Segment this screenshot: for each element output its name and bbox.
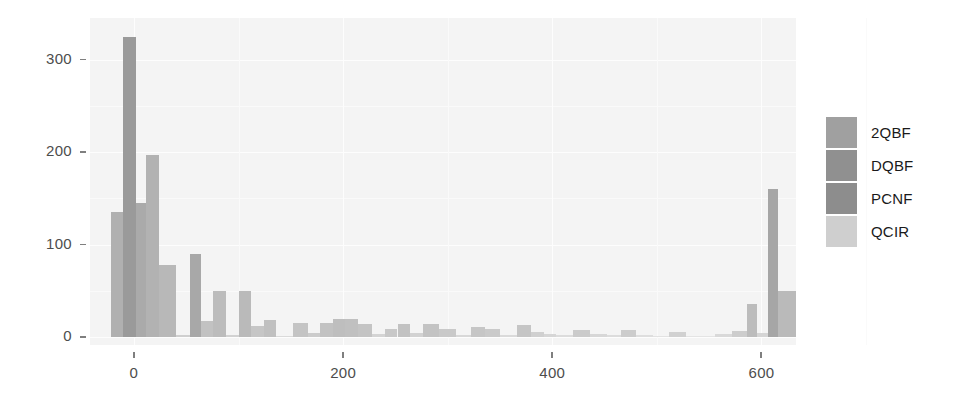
legend-item[interactable]: PCNF bbox=[826, 182, 956, 215]
legend-item[interactable]: 2QBF bbox=[826, 116, 956, 149]
histogram-bar bbox=[636, 335, 653, 337]
x-axis-tick-label: 600 bbox=[749, 364, 775, 381]
legend-item-label: DQBF bbox=[871, 157, 913, 174]
y-axis-tick-mark bbox=[80, 151, 86, 153]
chart-legend: 2QBFDQBFPCNFQCIR bbox=[826, 116, 956, 248]
histogram-bar bbox=[251, 326, 264, 337]
histogram-bar bbox=[136, 203, 146, 337]
histogram-bar bbox=[410, 333, 423, 337]
plot-panel bbox=[90, 18, 796, 345]
legend-item[interactable]: DQBF bbox=[826, 149, 956, 182]
y-axis-tick-mark bbox=[80, 244, 86, 246]
y-axis-tick-label: 300 bbox=[0, 50, 72, 67]
histogram-bar bbox=[308, 333, 321, 337]
histogram-bar bbox=[372, 334, 385, 337]
x-axis-tick-label: 400 bbox=[539, 364, 565, 381]
histogram-bar bbox=[358, 324, 373, 337]
histogram-bar bbox=[201, 321, 214, 337]
histogram-bar bbox=[732, 331, 747, 337]
x-axis-tick-mark bbox=[342, 352, 344, 358]
histogram-bar bbox=[768, 189, 778, 337]
legend-color-swatch bbox=[826, 216, 857, 247]
y-axis-tick-label: 200 bbox=[0, 142, 72, 159]
histogram-bar bbox=[621, 330, 636, 337]
chart-figure: 0100200300 0200400600 2QBFDQBFPCNFQCIR bbox=[0, 0, 966, 405]
x-axis-tick-mark bbox=[760, 352, 762, 358]
histogram-bar bbox=[607, 335, 622, 337]
histogram-bar bbox=[176, 335, 191, 337]
histogram-bar bbox=[123, 37, 136, 338]
histogram-bar bbox=[456, 335, 471, 337]
histogram-bar bbox=[531, 332, 544, 337]
y-axis-tick-label: 0 bbox=[0, 327, 72, 344]
histogram-bar bbox=[757, 333, 767, 337]
legend-item-label: QCIR bbox=[871, 223, 909, 240]
histogram-bar bbox=[276, 336, 293, 337]
histogram-bar bbox=[111, 212, 124, 337]
legend-item-label: 2QBF bbox=[871, 124, 911, 141]
histogram-bar bbox=[159, 265, 176, 337]
histogram-bar bbox=[423, 324, 440, 337]
histogram-bar bbox=[398, 324, 411, 337]
histogram-bar bbox=[293, 323, 308, 337]
legend-color-swatch bbox=[826, 183, 857, 214]
histogram-bar bbox=[345, 319, 358, 337]
histogram-bar bbox=[320, 323, 333, 337]
histogram-bar bbox=[485, 329, 500, 337]
x-axis-tick-mark bbox=[133, 352, 135, 358]
histogram-bar bbox=[500, 335, 517, 337]
x-axis-tick-label: 0 bbox=[130, 364, 139, 381]
histogram-bar bbox=[471, 327, 486, 337]
histogram-bar bbox=[715, 334, 732, 337]
histogram-bar bbox=[264, 320, 277, 337]
histogram-bar bbox=[439, 329, 456, 337]
histogram-bar bbox=[778, 291, 796, 337]
histogram-bar bbox=[146, 155, 159, 337]
y-axis-tick-mark bbox=[80, 336, 86, 338]
histogram-bar bbox=[544, 334, 557, 337]
x-axis-tick-label: 200 bbox=[330, 364, 356, 381]
histogram-bar bbox=[385, 329, 398, 337]
x-axis-tick-mark bbox=[551, 352, 553, 358]
histogram-bar bbox=[747, 304, 757, 337]
histogram-bar bbox=[239, 291, 252, 337]
histogram-bar bbox=[590, 334, 607, 337]
y-axis-tick-label: 100 bbox=[0, 235, 72, 252]
legend-color-swatch bbox=[826, 150, 857, 181]
histogram-bar bbox=[213, 291, 226, 337]
histogram-bar bbox=[653, 336, 670, 337]
legend-color-swatch bbox=[826, 117, 857, 148]
histogram-bar bbox=[556, 335, 573, 337]
y-axis-tick-mark bbox=[80, 59, 86, 61]
histogram-bar bbox=[333, 319, 346, 337]
histogram-bar bbox=[226, 335, 239, 337]
histogram-bars bbox=[90, 18, 796, 345]
histogram-bar bbox=[686, 336, 715, 337]
histogram-bar bbox=[573, 330, 590, 337]
histogram-bar bbox=[517, 325, 532, 337]
histogram-bar bbox=[190, 254, 200, 337]
legend-item[interactable]: QCIR bbox=[826, 215, 956, 248]
histogram-bar bbox=[669, 332, 686, 337]
legend-item-label: PCNF bbox=[871, 190, 913, 207]
